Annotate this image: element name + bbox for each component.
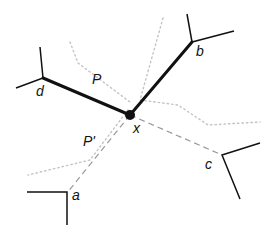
dashed-edges: [67, 115, 222, 193]
diagram-canvas: d b x a c P P': [0, 0, 275, 235]
label-b: b: [196, 44, 204, 58]
edge-x-b: [130, 42, 192, 115]
edge-x-c: [130, 115, 222, 155]
node-x-dot: [125, 110, 135, 120]
branch-c: [222, 143, 260, 199]
branch-a: [27, 192, 67, 225]
label-d: d: [36, 84, 44, 98]
dotted-path-upper-right: [140, 18, 260, 125]
edge-x-a: [67, 115, 130, 193]
label-x: x: [133, 121, 140, 135]
label-path-P: P: [92, 72, 101, 86]
solid-edges: [43, 42, 192, 115]
label-path-P-prime: P': [83, 134, 95, 148]
edge-d-x: [43, 78, 130, 115]
dotted-path-lower-left: [28, 110, 128, 175]
diagram-svg: [0, 0, 275, 235]
label-c: c: [205, 157, 212, 171]
label-a: a: [72, 188, 80, 202]
branch-b: [187, 14, 234, 42]
branch-d: [16, 47, 43, 88]
